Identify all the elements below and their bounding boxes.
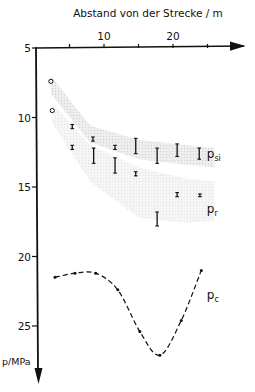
y-axis-arrow-icon xyxy=(35,368,43,384)
y-axis-label: p/MPa xyxy=(2,356,31,367)
dot-marker xyxy=(138,330,141,333)
dot-marker xyxy=(180,319,183,322)
label-p_r: pr xyxy=(207,202,219,218)
series-labels: psiprpc xyxy=(207,147,221,305)
series-p_c xyxy=(54,269,203,357)
label-p_c: pc xyxy=(207,288,219,304)
circle-marker xyxy=(49,79,53,83)
dashed-line xyxy=(55,270,201,355)
circle-marker xyxy=(50,108,54,112)
dot-marker xyxy=(200,269,203,272)
dot-marker xyxy=(158,354,161,357)
x-ticks: 1020 xyxy=(70,30,208,48)
chart: 1020 510152025 Abstand von der Strecke /… xyxy=(0,0,255,392)
y-tick-label: 10 xyxy=(18,112,31,124)
x-tick-label: 20 xyxy=(166,30,179,42)
dot-marker xyxy=(94,272,97,275)
dot-marker xyxy=(74,272,77,275)
label-p_si: psi xyxy=(207,147,221,163)
y-tick-label: 15 xyxy=(18,181,31,193)
y-tick-label: 5 xyxy=(24,42,31,54)
dot-marker xyxy=(116,288,119,291)
y-tick-label: 25 xyxy=(18,320,31,332)
dot-marker xyxy=(54,276,57,279)
y-ticks: 510152025 xyxy=(18,42,37,332)
confidence-bands xyxy=(51,76,215,223)
x-axis xyxy=(35,46,244,48)
y-tick-label: 20 xyxy=(18,251,31,263)
x-axis-label: Abstand von der Strecke / m xyxy=(73,7,223,19)
x-tick-label: 10 xyxy=(97,30,110,42)
y-axis xyxy=(36,48,38,372)
